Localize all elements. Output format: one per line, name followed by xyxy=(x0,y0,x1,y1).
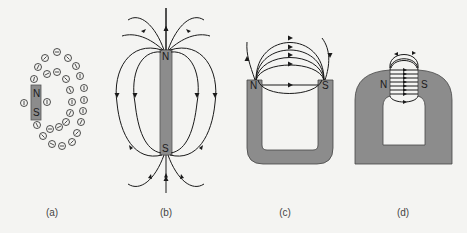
north-label-c: N xyxy=(250,80,257,91)
north-label-d: N xyxy=(380,79,387,90)
magnet-field-figure: N S xyxy=(0,0,467,233)
caption-a: (a) xyxy=(46,207,58,218)
bar-magnet-b xyxy=(160,50,172,155)
south-label-b: S xyxy=(162,143,169,154)
caption-d: (d) xyxy=(397,207,409,218)
panel-d: N S (d) xyxy=(355,51,452,218)
panel-a: N S xyxy=(21,49,88,219)
compass-needles xyxy=(21,49,88,150)
panel-c: N S (c) xyxy=(245,36,334,219)
panel-b: N S xyxy=(115,8,218,218)
south-label-a: S xyxy=(33,107,40,118)
gap-magnet xyxy=(355,70,452,164)
south-label-d: S xyxy=(421,79,428,90)
north-label-b: N xyxy=(162,51,169,62)
caption-b: (b) xyxy=(160,207,172,218)
north-label-a: N xyxy=(33,88,40,99)
south-label-c: S xyxy=(322,80,329,91)
caption-c: (c) xyxy=(279,207,291,218)
horseshoe-magnet xyxy=(247,80,333,164)
